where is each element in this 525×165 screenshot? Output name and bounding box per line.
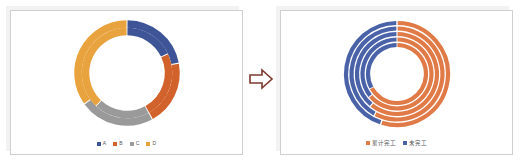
left-legend-item[interactable]: D bbox=[146, 141, 156, 146]
right-chart-area[interactable] bbox=[281, 15, 512, 133]
legend-swatch-icon bbox=[146, 142, 150, 146]
right-legend-item[interactable]: 未完工 bbox=[403, 141, 427, 147]
legend-swatch-icon bbox=[366, 141, 370, 145]
donut-segment[interactable] bbox=[98, 104, 146, 115]
left-legend-item[interactable]: B bbox=[113, 141, 122, 146]
legend-swatch-icon bbox=[130, 142, 134, 146]
legend-swatch-icon bbox=[113, 142, 117, 146]
right-donut-chart[interactable] bbox=[341, 18, 453, 130]
left-chart-area[interactable] bbox=[11, 15, 242, 133]
right-arrow-icon bbox=[248, 68, 274, 90]
left-legend-item[interactable]: A bbox=[97, 141, 106, 146]
legend-swatch-icon bbox=[403, 141, 407, 145]
right-chart-panel[interactable]: 累计完工未完工 ? bbox=[280, 10, 513, 155]
left-legend-item[interactable]: C bbox=[130, 141, 140, 146]
right-chart-legend: 累计完工未完工 bbox=[281, 141, 512, 147]
left-donut-chart[interactable] bbox=[72, 18, 182, 130]
legend-label: 累计完工 bbox=[372, 141, 396, 147]
legend-label: C bbox=[136, 141, 140, 146]
slide-comparison-figure: ABCD 累计完工未完工 ? bbox=[0, 0, 525, 165]
legend-label: 未完工 bbox=[409, 141, 427, 147]
left-chart-legend: ABCD bbox=[11, 141, 242, 146]
donut-segment[interactable] bbox=[371, 45, 425, 103]
legend-label: A bbox=[103, 141, 106, 146]
legend-label: B bbox=[119, 141, 122, 146]
legend-swatch-icon bbox=[97, 142, 101, 146]
left-chart-panel[interactable]: ABCD bbox=[10, 10, 243, 155]
legend-label: D bbox=[152, 141, 156, 146]
right-legend-item[interactable]: 累计完工 bbox=[366, 141, 396, 147]
